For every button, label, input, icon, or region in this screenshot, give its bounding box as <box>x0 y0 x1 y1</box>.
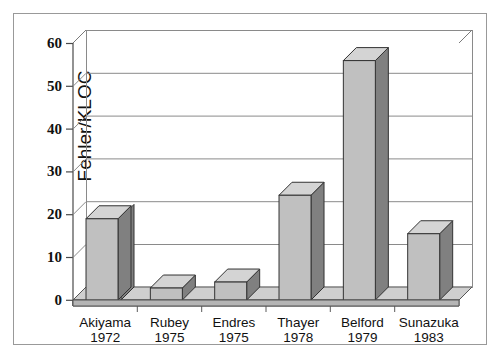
x-category-label-endres: Endres 1975 <box>202 315 266 345</box>
x-category-name-rubey: Rubey <box>150 315 189 330</box>
bar-akiyama-front-face <box>86 219 118 300</box>
depth-edge-top-right <box>459 30 472 43</box>
bar-belford-right-face <box>375 48 388 300</box>
y-tick-connector-40 <box>73 116 86 129</box>
bar-rubey-front-face <box>150 288 182 300</box>
x-category-year-thayer: 1978 <box>266 330 330 345</box>
x-category-name-thayer: Thayer <box>277 315 319 330</box>
y-tick-connector-20 <box>73 202 86 215</box>
y-tick-label-0: 0 <box>28 293 62 308</box>
bar-akiyama-body <box>86 206 131 300</box>
x-category-label-thayer: Thayer 1978 <box>266 315 330 345</box>
y-tick-label-60: 60 <box>28 36 62 51</box>
y-tick-connector-10 <box>73 245 86 258</box>
depth-edge-top-left <box>73 30 86 43</box>
bar-thayer-body <box>279 182 324 300</box>
bar-akiyama-right-face <box>118 206 131 300</box>
y-tick-label-10: 10 <box>28 250 62 265</box>
y-tick-label-30: 30 <box>28 164 62 179</box>
bar-belford-front-face <box>343 61 375 300</box>
x-category-name-akiyama: Akiyama <box>79 315 131 330</box>
x-category-name-endres: Endres <box>212 315 255 330</box>
y-tick-connector-30 <box>73 159 86 172</box>
bar-sunazuka-front-face <box>408 234 440 300</box>
bar-sunazuka-body <box>408 221 453 300</box>
x-category-label-sunazuka: Sunazuka 1983 <box>395 315 463 345</box>
y-tick-depth-connectors <box>73 73 86 257</box>
x-category-name-sunazuka: Sunazuka <box>399 315 459 330</box>
bar-sunazuka-right-face <box>440 221 453 300</box>
figure-frame: Fehler/KLOC <box>13 13 487 345</box>
y-tick-label-50: 50 <box>28 79 62 94</box>
bar-belford-body <box>343 48 388 300</box>
floor-front-face-overlay <box>73 300 459 306</box>
x-category-year-akiyama: 1972 <box>73 330 137 345</box>
x-tick-marks <box>137 306 394 312</box>
figure-bar-chart: Fehler/KLOC <box>0 0 504 359</box>
x-category-year-rubey: 1975 <box>137 330 201 345</box>
plot-area <box>14 14 488 346</box>
x-category-year-endres: 1975 <box>202 330 266 345</box>
y-tick-label-40: 40 <box>28 122 62 137</box>
x-category-label-rubey: Rubey 1975 <box>137 315 201 345</box>
x-category-name-belford: Belford <box>341 315 384 330</box>
y-tick-label-20: 20 <box>28 207 62 222</box>
x-category-label-belford: Belford 1979 <box>330 315 394 345</box>
bar-thayer-right-face <box>311 182 324 300</box>
floor-front-overlay <box>73 300 459 306</box>
y-tick-connector-50 <box>73 73 86 86</box>
bar-endres-front-face <box>215 282 247 300</box>
x-category-year-belford: 1979 <box>330 330 394 345</box>
x-category-year-sunazuka: 1983 <box>395 330 463 345</box>
x-category-label-akiyama: Akiyama 1972 <box>73 315 137 345</box>
y-tick-marks <box>66 44 73 301</box>
bar-thayer-front-face <box>279 195 311 300</box>
